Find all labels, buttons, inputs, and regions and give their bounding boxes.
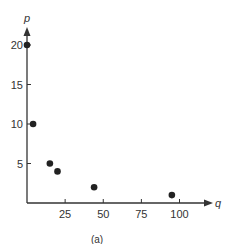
y-tick-label: 5 <box>17 158 23 170</box>
y-axis-title: p <box>23 12 30 24</box>
data-points <box>24 42 175 199</box>
y-tick-label: 10 <box>11 118 23 130</box>
chart-caption: (a) <box>91 234 103 244</box>
x-tick-label: 50 <box>97 208 109 220</box>
y-tick-label: 20 <box>11 39 23 51</box>
axes: q p <box>23 12 222 209</box>
y-ticks: 5101520 <box>11 39 31 170</box>
x-tick-label: 100 <box>170 208 188 220</box>
x-axis-title: q <box>215 197 222 209</box>
scatter-chart: q p 255075100 5101520 (a) <box>0 0 231 244</box>
x-axis-arrow-icon <box>204 200 213 207</box>
x-tick-label: 25 <box>59 208 71 220</box>
data-point <box>169 192 176 199</box>
data-point <box>54 168 61 175</box>
data-point <box>24 42 31 49</box>
x-ticks: 255075100 <box>59 199 189 220</box>
data-point <box>91 184 98 191</box>
data-point <box>47 160 54 167</box>
y-axis-arrow-icon <box>24 27 31 36</box>
y-tick-label: 15 <box>11 79 23 91</box>
x-tick-label: 75 <box>135 208 147 220</box>
data-point <box>30 121 37 128</box>
